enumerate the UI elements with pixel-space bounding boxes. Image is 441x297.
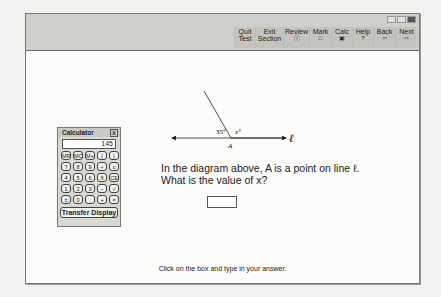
point-a-label: A	[227, 142, 233, 150]
question-text: In the diagram above, A is a point on li…	[161, 162, 359, 186]
line-l-label: ℓ	[289, 132, 294, 144]
angle-x-label: x°	[234, 128, 241, 136]
answer-input[interactable]	[207, 196, 237, 208]
geometry-diagram: 35° x° A ℓ	[26, 14, 419, 283]
test-window: Quit Test Exit Section Review ⓘ Mark □ C…	[25, 13, 420, 284]
angle-35-label: 35°	[216, 128, 226, 136]
instruction-text: Click on the box and type in your answer…	[26, 265, 419, 272]
question-line-1: In the diagram above, A is a point on li…	[161, 162, 359, 174]
question-line-2: What is the value of x?	[161, 174, 359, 186]
